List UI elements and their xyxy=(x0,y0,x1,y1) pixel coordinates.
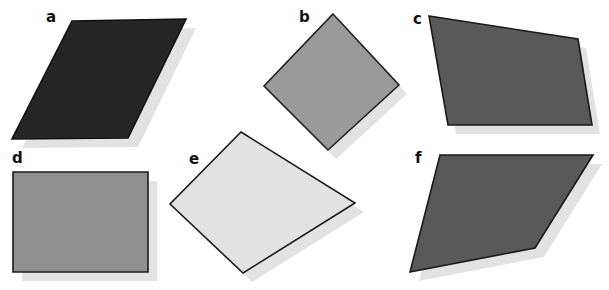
shape-d[interactable] xyxy=(13,172,148,272)
shape-label-f: f xyxy=(415,151,422,166)
shape-canvas xyxy=(0,0,609,290)
shape-label-a: a xyxy=(46,10,56,25)
shape-label-e: e xyxy=(189,152,199,167)
shape-label-d: d xyxy=(12,151,23,166)
shape-label-b: b xyxy=(299,10,310,25)
shape-figure-panel: abcdef xyxy=(0,0,609,290)
shape-label-c: c xyxy=(413,12,422,27)
